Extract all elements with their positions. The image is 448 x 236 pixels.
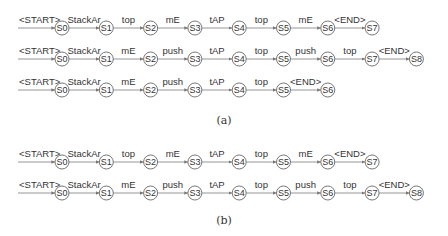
diagram-group-0: <START>StackArtopmEtAPtopmE<END>S0S1S2S3… xyxy=(18,14,423,127)
transition-label: top xyxy=(255,45,268,56)
state-label: S3 xyxy=(189,85,200,95)
state-sequence-row: <START>StackArtopmEtAPtopmE<END>S0S1S2S3… xyxy=(18,14,379,35)
transition-label: StackAr xyxy=(68,45,101,56)
transition-label: <END> xyxy=(379,45,411,56)
state-label: S4 xyxy=(234,157,245,167)
transition-label: top xyxy=(255,14,268,25)
transition-label: mE xyxy=(121,76,135,87)
transition-label: top xyxy=(255,179,268,190)
transition-label: push xyxy=(295,45,316,56)
state-label: S7 xyxy=(367,23,378,33)
transition-label: <END> xyxy=(334,148,366,159)
state-sequence-row: <START>StackArmEpushtAPtoppushtop<END>S0… xyxy=(18,179,423,200)
state-label: S5 xyxy=(278,188,289,198)
transition-label: tAP xyxy=(209,14,224,25)
state-label: S1 xyxy=(101,23,112,33)
state-label: S3 xyxy=(189,188,200,198)
state-label: S8 xyxy=(411,188,422,198)
start-label: <START> xyxy=(19,148,61,159)
state-label: S1 xyxy=(101,54,112,64)
state-label: S2 xyxy=(145,54,156,64)
transition-label: StackAr xyxy=(68,76,101,87)
transition-label: tAP xyxy=(209,179,224,190)
state-label: S7 xyxy=(367,157,378,167)
state-label: S0 xyxy=(56,157,67,167)
state-label: S2 xyxy=(145,188,156,198)
transition-label: top xyxy=(343,45,356,56)
state-machine-diagram: <START>StackArtopmEtAPtopmE<END>S0S1S2S3… xyxy=(0,0,448,236)
state-label: S4 xyxy=(234,188,245,198)
start-label: <START> xyxy=(19,76,61,87)
transition-label: StackAr xyxy=(68,14,101,25)
subfigure-caption: (a) xyxy=(216,114,231,127)
subfigure-caption: (b) xyxy=(216,214,232,227)
transition-label: mE xyxy=(166,148,180,159)
state-label: S6 xyxy=(322,85,333,95)
start-label: <START> xyxy=(19,45,61,56)
transition-label: mE xyxy=(166,14,180,25)
transition-label: top xyxy=(343,179,356,190)
state-label: S7 xyxy=(367,188,378,198)
transition-label: push xyxy=(162,45,183,56)
state-label: S1 xyxy=(101,85,112,95)
state-label: S0 xyxy=(56,85,67,95)
transition-label: top xyxy=(255,148,268,159)
state-label: S8 xyxy=(411,54,422,64)
transition-label: mE xyxy=(299,14,313,25)
state-label: S2 xyxy=(145,85,156,95)
transition-label: <END> xyxy=(379,179,411,190)
state-label: S4 xyxy=(234,85,245,95)
transition-label: push xyxy=(295,179,316,190)
start-label: <START> xyxy=(19,179,61,190)
state-label: S5 xyxy=(278,23,289,33)
state-label: S3 xyxy=(189,54,200,64)
state-label: S1 xyxy=(101,188,112,198)
transition-label: <END> xyxy=(290,76,322,87)
state-label: S0 xyxy=(56,23,67,33)
state-label: S4 xyxy=(234,23,245,33)
state-label: S3 xyxy=(189,23,200,33)
state-label: S5 xyxy=(278,54,289,64)
transition-label: tAP xyxy=(209,148,224,159)
transition-label: StackAr xyxy=(68,179,101,190)
transition-label: StackAr xyxy=(68,148,101,159)
transition-label: top xyxy=(122,148,135,159)
state-sequence-row: <START>StackArmEpushtAPtoppushtop<END>S0… xyxy=(18,45,423,66)
state-label: S2 xyxy=(145,157,156,167)
state-label: S6 xyxy=(322,188,333,198)
start-label: <START> xyxy=(19,14,61,25)
transition-label: <END> xyxy=(334,14,366,25)
state-label: S5 xyxy=(278,85,289,95)
transition-label: tAP xyxy=(209,76,224,87)
state-label: S2 xyxy=(145,23,156,33)
state-label: S0 xyxy=(56,188,67,198)
state-label: S6 xyxy=(322,157,333,167)
state-label: S5 xyxy=(278,157,289,167)
transition-label: push xyxy=(162,76,183,87)
diagram-group-1: <START>StackArtopmEtAPtopmE<END>S0S1S2S3… xyxy=(18,148,423,227)
state-label: S0 xyxy=(56,54,67,64)
state-label: S4 xyxy=(234,54,245,64)
transition-label: top xyxy=(122,14,135,25)
state-label: S6 xyxy=(322,54,333,64)
state-label: S6 xyxy=(322,23,333,33)
transition-label: mE xyxy=(121,179,135,190)
state-label: S7 xyxy=(367,54,378,64)
transition-label: tAP xyxy=(209,45,224,56)
state-sequence-row: <START>StackArmEpushtAPtop<END>S0S1S2S3S… xyxy=(18,76,335,97)
transition-label: mE xyxy=(121,45,135,56)
transition-label: mE xyxy=(299,148,313,159)
state-sequence-row: <START>StackArtopmEtAPtopmE<END>S0S1S2S3… xyxy=(18,148,379,169)
transition-label: push xyxy=(162,179,183,190)
state-label: S3 xyxy=(189,157,200,167)
transition-label: top xyxy=(255,76,268,87)
state-label: S1 xyxy=(101,157,112,167)
